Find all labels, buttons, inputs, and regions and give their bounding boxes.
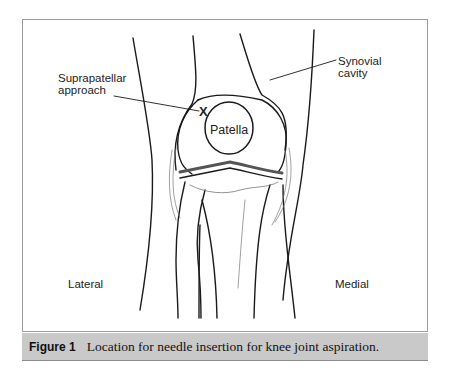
tibia-lateral-edge <box>176 182 185 318</box>
caption-figure-number: Figure 1 <box>29 340 76 354</box>
fibula-edge-2 <box>202 200 217 318</box>
knee-illustration <box>0 0 452 389</box>
synovial-cavity-label: Synovial <box>338 55 381 67</box>
lateral-thigh-contour <box>133 38 153 310</box>
synovial-cavity-label-line2: cavity <box>338 67 367 79</box>
suprapatellar-approach-label-line2: approach <box>58 84 106 96</box>
lateral-label: Lateral <box>68 278 103 290</box>
caption-text: Location for needle insertion for knee j… <box>87 339 379 355</box>
medial-label: Medial <box>335 278 369 290</box>
tibia-medial-edge <box>254 185 270 318</box>
patella-label: Patella <box>210 124 248 136</box>
synovial-leader-line <box>270 60 336 80</box>
figure-caption: Figure 1 Location for needle insertion f… <box>22 333 428 361</box>
suprapatellar-approach-label: Suprapatellar <box>58 72 126 84</box>
suprapatellar-leader-line <box>114 96 199 111</box>
insertion-site-marker: X <box>199 106 208 118</box>
